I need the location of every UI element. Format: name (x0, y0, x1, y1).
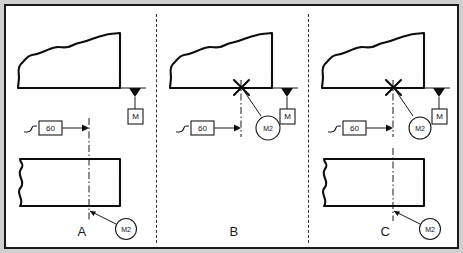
bottom-view-a (19, 159, 120, 206)
panel-a-drawing: M 60 (6, 6, 158, 251)
dimension-symbol-b: 60 (176, 121, 241, 135)
panel-b-drawing: M 60 (158, 6, 310, 251)
surface-symbol-a: M (128, 88, 143, 124)
top-callout-c: M2 (396, 91, 431, 139)
panel-c-drawing: M 60 (310, 6, 461, 251)
top-callout-b: M2 (244, 91, 280, 140)
dimension-arrow-icon-b (234, 125, 241, 132)
panel-divider-1 (156, 14, 157, 243)
surface-symbol-c: M (432, 88, 447, 124)
panel-label-a: A (6, 224, 158, 239)
panel-a: M 60 (6, 6, 158, 247)
panel-divider-2 (308, 14, 309, 243)
diagram-frame: M 60 (4, 4, 459, 249)
dimension-value-b: 60 (198, 124, 207, 133)
dimension-arrow-icon-a (82, 125, 89, 132)
top-callout-label-b: M2 (263, 125, 273, 132)
top-callout-label-c: M2 (415, 125, 425, 132)
dimension-value-a: 60 (46, 124, 55, 133)
panel-label-c: C (310, 224, 461, 239)
dimension-value-c: 60 (350, 124, 359, 133)
panel-b: M 60 (158, 6, 310, 247)
ramp-glyph-icon-b (179, 126, 189, 132)
datum-triangle-icon-c (433, 88, 445, 97)
surface-label-a: M (132, 112, 139, 121)
dimension-symbol-a: 60 (24, 121, 89, 135)
panel-label-b: B (158, 224, 310, 239)
bottom-view-c (323, 159, 424, 206)
ramp-glyph-icon-c (331, 126, 341, 132)
panel-c: M 60 (310, 6, 461, 247)
datum-triangle-icon (129, 88, 141, 97)
surface-label-c: M (436, 112, 443, 121)
datum-triangle-icon-b (281, 88, 293, 97)
top-profile-outline-a (18, 33, 146, 88)
surface-symbol-b: M (280, 88, 295, 124)
surface-label-b: M (284, 112, 291, 121)
ramp-glyph-icon-a (27, 126, 37, 132)
dimension-symbol-c: 60 (328, 121, 393, 135)
diagram-canvas: M 60 (0, 0, 463, 253)
dimension-arrow-icon-c (386, 125, 393, 132)
